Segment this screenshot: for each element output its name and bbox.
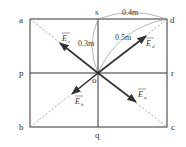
vector-subscript: a [144, 95, 147, 100]
vector-label-Ea: E a [137, 89, 147, 100]
label-b: b [19, 122, 24, 132]
vector-Ea [98, 73, 136, 102]
field-diagram: a b c d p q r s o 0.4m 0.3m 0.5m E c E d… [0, 0, 186, 147]
label-q: q [95, 130, 100, 140]
label-c: c [171, 122, 175, 132]
vector-subscript: c [68, 39, 71, 44]
vector-symbol: E [145, 39, 151, 48]
label-o: o [92, 75, 97, 85]
vector-label-Ec: E c [61, 33, 71, 44]
center-point [97, 72, 100, 75]
label-d: d [170, 15, 175, 25]
vector-symbol: E [61, 34, 67, 43]
label-s: s [95, 7, 99, 17]
vector-symbol: E [137, 90, 143, 99]
label-a: a [19, 15, 23, 25]
vector-symbol: E [74, 97, 80, 106]
dimension-sd: 0.4m [122, 8, 139, 17]
vector-subscript: b [81, 102, 84, 107]
dimension-od: 0.5m [115, 33, 132, 42]
label-r: r [171, 68, 174, 78]
vector-label-Eb: E b [74, 96, 84, 107]
vector-label-Ed: E d [145, 38, 155, 49]
dimension-os: 0.3m [78, 39, 95, 48]
label-p: p [19, 68, 24, 78]
vector-subscript: d [152, 44, 155, 49]
